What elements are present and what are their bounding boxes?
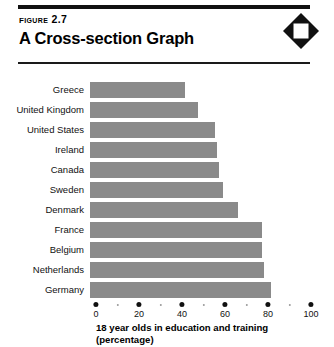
bar-track [90,140,334,160]
bar-row: Ireland [0,140,334,160]
bar-track [90,180,334,200]
bar-fill [90,122,215,138]
axis-tick-minor [245,304,247,306]
bar-chart: GreeceUnited KingdomUnited StatesIreland… [0,76,334,304]
bar-category-label: France [0,225,90,235]
figure-card: Figure 2.7 A Cross-section Graph GreeceU… [0,0,334,347]
bar-category-label: United Kingdom [0,105,90,115]
bar-row: United States [0,120,334,140]
axis-tick-label: 40 [177,310,187,319]
bar-fill [90,242,262,258]
bar-category-label: Greece [0,85,90,95]
bar-track [90,160,334,180]
header-top-rule [18,5,310,9]
bar-row: France [0,220,334,240]
bar-track [90,240,334,260]
x-axis: 020406080100 [96,302,311,310]
bar-row: United Kingdom [0,100,334,120]
bar-category-label: United States [0,125,90,135]
bar-fill [90,202,238,218]
figure-number-label: Figure 2.7 [19,13,67,25]
axis-tick-major [179,302,184,307]
axis-tick-minor [159,304,161,306]
bar-track [90,100,334,120]
bar-row: Canada [0,160,334,180]
x-axis-caption-line1: 18 year olds in education and training [96,322,326,334]
bar-rows: GreeceUnited KingdomUnited StatesIreland… [0,80,334,300]
bar-fill [90,82,185,98]
header-bottom-rule [18,62,310,64]
bar-row: Denmark [0,200,334,220]
axis-tick-label: 60 [220,310,230,319]
bar-category-label: Canada [0,165,90,175]
diamond-logo-icon [282,12,320,50]
x-axis-caption-line2: (percentage) [96,334,326,346]
bar-track [90,260,334,280]
bar-category-label: Netherlands [0,265,90,275]
axis-tick-minor [202,304,204,306]
page-title: A Cross-section Graph [19,30,194,47]
bar-category-label: Belgium [0,245,90,255]
bar-category-label: Denmark [0,205,90,215]
axis-tick-major [265,302,270,307]
bar-track [90,280,334,300]
axis-tick-label: 80 [263,310,273,319]
axis-tick-major [222,302,227,307]
bar-row: Belgium [0,240,334,260]
bar-track [90,120,334,140]
axis-tick-minor [288,304,290,306]
bar-fill [90,282,271,298]
axis-tick-major [136,302,141,307]
bar-track [90,80,334,100]
bar-category-label: Sweden [0,185,90,195]
bar-fill [90,182,223,198]
bar-category-label: Ireland [0,145,90,155]
axis-tick-major [93,302,98,307]
bar-row: Greece [0,80,334,100]
bar-fill [90,102,198,118]
bar-row: Sweden [0,180,334,200]
axis-tick-label: 100 [303,310,318,319]
bar-fill [90,142,217,158]
bar-category-label: Germany [0,285,90,295]
bar-row: Germany [0,280,334,300]
bar-fill [90,162,219,178]
bar-fill [90,262,264,278]
bar-fill [90,222,262,238]
x-axis-caption: 18 year olds in education and training (… [96,322,326,345]
axis-tick-label: 0 [93,310,98,319]
bar-track [90,200,334,220]
bar-row: Netherlands [0,260,334,280]
axis-tick-label: 20 [134,310,144,319]
axis-tick-minor [116,304,118,306]
axis-tick-major [308,302,313,307]
bar-track [90,220,334,240]
